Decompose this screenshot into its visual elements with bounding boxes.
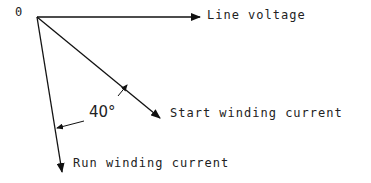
start-winding-label: Start winding current [170, 106, 343, 120]
line-voltage-label: Line voltage [207, 8, 306, 22]
angle-leader-run [57, 121, 84, 128]
phasor-diagram: 0 Line voltage Start winding current Run… [0, 0, 371, 183]
angle-label: 40° [89, 103, 116, 121]
origin-label: 0 [15, 5, 23, 19]
run-winding-label: Run winding current [73, 156, 229, 170]
run-winding-vector [37, 17, 62, 172]
